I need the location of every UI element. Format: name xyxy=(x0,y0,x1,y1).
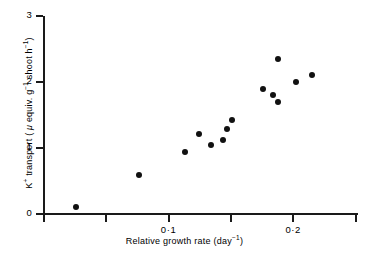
data-point xyxy=(270,92,276,98)
y-axis-tick xyxy=(36,147,43,149)
data-point xyxy=(309,72,315,78)
data-point xyxy=(275,56,281,62)
x-axis-tick xyxy=(43,215,45,222)
data-point xyxy=(136,172,142,178)
data-point xyxy=(293,79,299,85)
x-axis-tick xyxy=(105,215,107,222)
data-point xyxy=(224,126,230,132)
x-axis-line xyxy=(43,213,358,215)
scatter-plot-figure: 0123 0·10·2 K+ transport ( μ equiv. g−1 … xyxy=(0,0,369,258)
data-point xyxy=(208,142,214,148)
y-axis-line xyxy=(43,16,45,215)
data-point xyxy=(182,149,188,155)
data-point xyxy=(275,99,281,105)
x-axis-tick xyxy=(230,215,232,222)
data-point xyxy=(220,137,226,143)
x-axis-tick xyxy=(355,215,357,222)
data-point xyxy=(229,117,235,123)
x-axis-tick-label: 0·1 xyxy=(146,224,192,235)
data-point xyxy=(73,204,79,210)
y-axis-title: K+ transport ( μ equiv. g−1 shoot h−1) xyxy=(24,0,34,228)
y-axis-tick xyxy=(36,81,43,83)
y-axis-tick xyxy=(36,15,43,17)
x-axis-tick xyxy=(292,215,294,222)
x-axis-tick-label: 0·2 xyxy=(270,224,316,235)
x-axis-title: Relative growth rate (day−1) xyxy=(0,236,369,246)
x-axis-tick xyxy=(168,215,170,222)
y-axis-tick xyxy=(36,213,43,215)
data-point xyxy=(260,86,266,92)
data-point xyxy=(196,131,202,137)
